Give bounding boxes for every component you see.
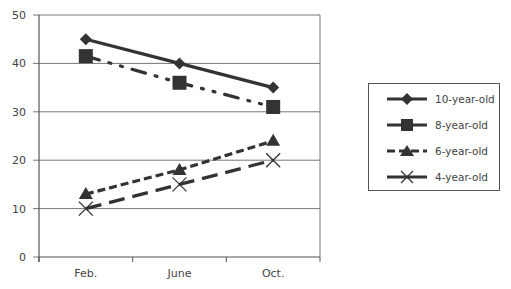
x-tick-label: June [167, 267, 192, 280]
x-marker-icon [387, 169, 433, 185]
triangle-marker-icon [387, 143, 433, 159]
axes [33, 15, 320, 262]
legend-label: 6-year-old [435, 145, 488, 157]
legend-item-8-year-old: 8-year-old [369, 117, 499, 135]
x-axis-labels: Feb.JuneOct. [74, 267, 284, 280]
y-tick-label: 30 [12, 106, 26, 119]
square-marker-icon [79, 49, 93, 63]
legend-label: 4-year-old [435, 171, 488, 183]
legend-item-10-year-old: 10-year-old [369, 91, 499, 109]
x-tick-label: Oct. [262, 267, 285, 280]
y-tick-label: 40 [12, 57, 26, 70]
series-4-year-old [79, 153, 280, 215]
y-tick-label: 50 [12, 9, 26, 22]
diamond-marker-icon [174, 57, 186, 69]
y-tick-label: 10 [12, 203, 26, 216]
legend-item-6-year-old: 6-year-old [369, 143, 499, 161]
square-marker-icon [387, 117, 433, 133]
square-marker-icon [266, 100, 280, 114]
legend-label: 10-year-old [435, 93, 495, 105]
legend-label: 8-year-old [435, 119, 488, 131]
diamond-marker-icon [387, 91, 433, 107]
legend: 10-year-old 8-year-old 6-year-old 4-year… [368, 83, 500, 191]
diamond-marker-icon [267, 82, 279, 94]
diamond-marker-icon [80, 33, 92, 45]
legend-item-4-year-old: 4-year-old [369, 169, 499, 187]
y-tick-label: 20 [12, 154, 26, 167]
square-marker-icon [173, 76, 187, 90]
x-tick-label: Feb. [74, 267, 97, 280]
triangle-marker-icon [266, 134, 280, 146]
y-tick-label: 0 [19, 251, 26, 264]
y-axis-labels: 01020304050 [12, 9, 26, 264]
series-lines [79, 33, 280, 215]
